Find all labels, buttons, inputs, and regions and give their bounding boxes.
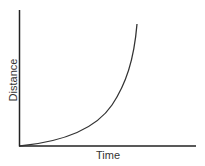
data-curve [20, 24, 137, 146]
y-axis-label: Distance [7, 55, 19, 105]
chart-canvas [0, 0, 205, 166]
x-axis-label: Time [96, 149, 120, 161]
